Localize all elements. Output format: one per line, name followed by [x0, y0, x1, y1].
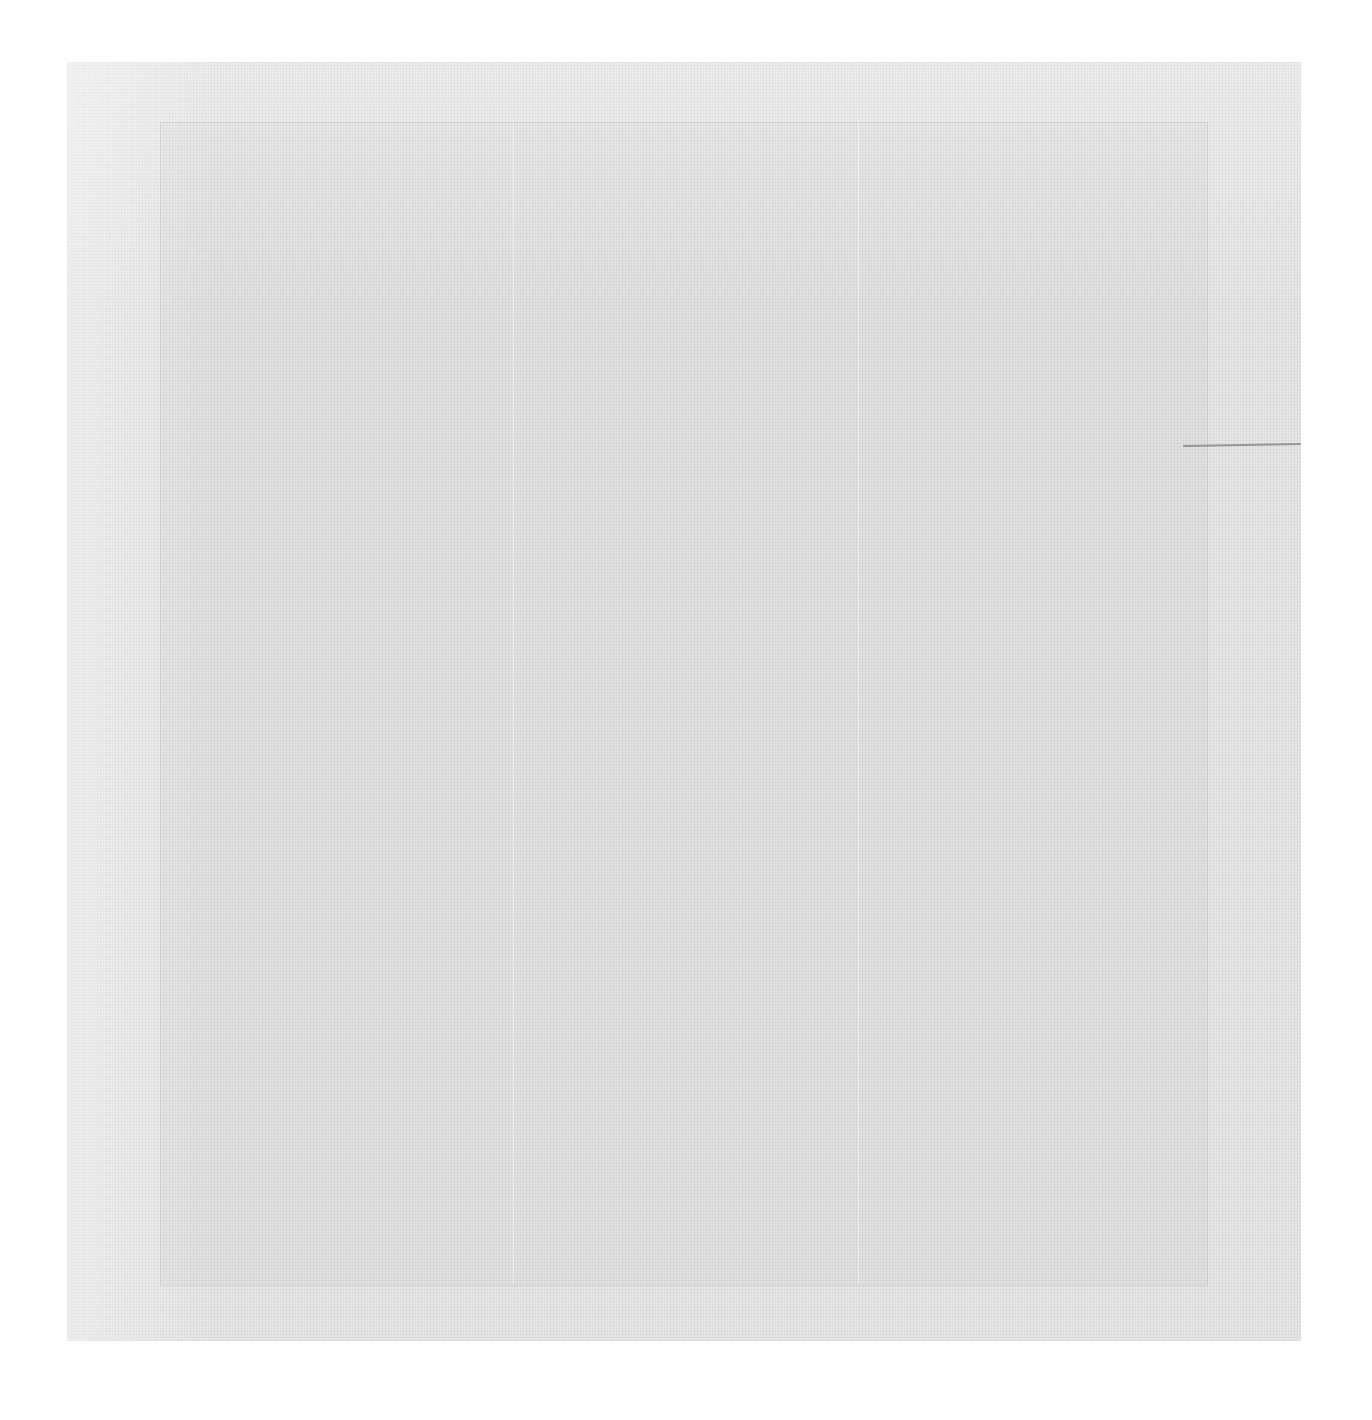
inner-frame-border — [160, 122, 1208, 1286]
vertical-crease-left — [513, 122, 514, 1284]
vertical-crease-right — [858, 122, 859, 1284]
blank-textured-canvas — [67, 62, 1301, 1341]
